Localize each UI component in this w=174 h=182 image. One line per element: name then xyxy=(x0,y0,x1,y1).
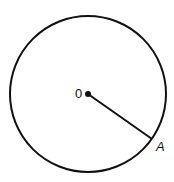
center-label: 0 xyxy=(75,87,82,100)
point-a-label: A xyxy=(156,140,165,153)
circle-diagram xyxy=(0,0,174,182)
radius-segment xyxy=(88,94,152,139)
center-point xyxy=(85,91,91,97)
